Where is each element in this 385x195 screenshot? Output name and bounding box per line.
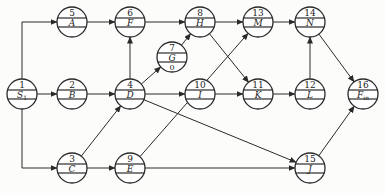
edge-3-to-4	[81, 106, 120, 156]
node-10: 10I	[185, 79, 215, 109]
nodes-layer: 1S15A2B3C6F4D9E7G08H10I13M11K14N12L15J16…	[7, 7, 378, 183]
edge-7-to-8	[181, 34, 190, 46]
node-4: 4D	[115, 79, 145, 109]
node-activity-label: M	[252, 18, 263, 28]
diagram-canvas: 1S15A2B3C6F4D9E7G08H10I13M11K14N12L15J16…	[0, 0, 385, 195]
node-activity-label: F	[126, 18, 134, 28]
node-number: 14	[304, 8, 316, 18]
node-13: 13M	[243, 7, 273, 37]
node-3: 3C	[57, 153, 87, 183]
node-activity-label: E	[126, 164, 134, 174]
edge-1-to-5	[22, 22, 57, 79]
node-activity-label: H	[195, 18, 204, 28]
node-activity-label: N	[305, 18, 315, 28]
node-9: 9E	[115, 153, 145, 183]
node-6: 6F	[115, 7, 145, 37]
node-12: 12L	[295, 79, 325, 109]
node-15: 15J	[295, 153, 325, 183]
node-duration: 0	[169, 63, 174, 72]
node-1: 1S1	[7, 79, 37, 109]
node-number: 9	[127, 154, 133, 164]
node-number: 11	[252, 80, 263, 90]
network-diagram: 1S15A2B3C6F4D9E7G08H10I13M11K14N12L15J16…	[0, 0, 385, 195]
node-number: 12	[304, 80, 315, 90]
node-number: 8	[197, 8, 203, 18]
node-activity-label: K	[254, 90, 263, 100]
node-16: 16Fin	[348, 79, 378, 109]
node-number: 13	[252, 8, 264, 18]
edge-1-to-3	[22, 109, 57, 168]
node-number: 2	[69, 80, 75, 90]
edge-8-to-11	[209, 34, 248, 83]
edge-15-to-16	[319, 106, 355, 156]
edge-4-to-7	[141, 67, 160, 84]
node-8: 8H	[185, 7, 215, 37]
node-7: 7G0	[157, 42, 187, 72]
node-number: 15	[304, 154, 316, 164]
node-number: 4	[127, 80, 133, 90]
node-2: 2B	[57, 79, 87, 109]
edge-4-to-15	[144, 100, 296, 163]
node-activity-label: A	[68, 18, 76, 28]
node-activity-label: C	[69, 164, 76, 174]
node-number: 5	[69, 8, 75, 18]
node-number: 6	[127, 8, 133, 18]
node-number: 10	[194, 80, 206, 90]
node-activity-label: G	[168, 53, 175, 63]
node-activity-label: D	[125, 90, 133, 100]
node-number: 1	[19, 80, 25, 90]
node-14: 14N	[295, 7, 325, 37]
node-activity-label: L	[306, 90, 313, 100]
node-11: 11K	[243, 79, 273, 109]
node-activity-label: B	[68, 90, 76, 100]
node-number: 7	[169, 43, 175, 53]
node-number: 16	[357, 80, 369, 90]
edge-14-to-16	[319, 34, 354, 82]
node-activity-label: I	[197, 90, 202, 100]
node-number: 3	[69, 154, 75, 164]
node-5: 5A	[57, 7, 87, 37]
